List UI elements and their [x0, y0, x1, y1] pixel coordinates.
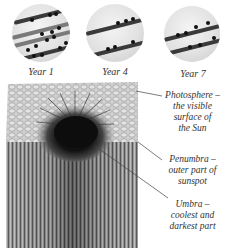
umbra: [54, 116, 98, 148]
penumbra-label: Penumbra – outer part of sunspot: [160, 154, 225, 187]
photosphere-leader-line: [136, 91, 162, 96]
umbra-label: Umbra – coolest and darkest part: [160, 199, 225, 232]
penumbra-leader-line: [138, 142, 162, 160]
photosphere-label: Photosphere – the visible surface of the…: [160, 90, 225, 134]
